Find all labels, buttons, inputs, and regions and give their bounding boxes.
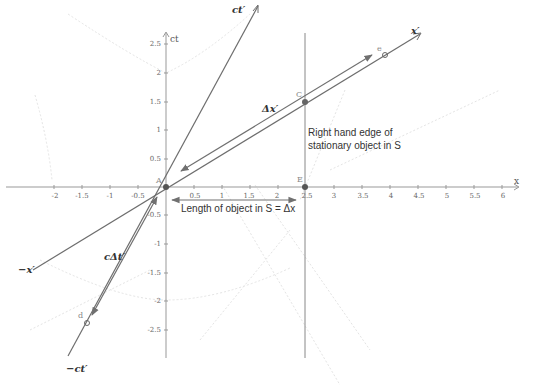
x-axis-label: x <box>514 176 519 186</box>
x-prime-axis <box>33 33 421 270</box>
svg-text:1.5: 1.5 <box>150 98 161 106</box>
svg-text:-1: -1 <box>154 240 161 248</box>
ct-prime-axis <box>68 5 258 356</box>
svg-text:1.5: 1.5 <box>243 192 254 200</box>
right-edge-label-line1: Right hand edge of <box>308 127 393 138</box>
svg-text:2.5: 2.5 <box>150 40 161 48</box>
neg-x-prime-label: −x′ <box>18 264 35 275</box>
svg-text:e: e <box>377 44 382 53</box>
right-edge-label-line2: stationary object in S <box>308 140 401 151</box>
svg-text:-0.5: -0.5 <box>148 211 162 219</box>
x-tick-labels: -2 -1.5 -1 -0.5 0.5 1 1.5 2 2.5 3 3.5 4 … <box>52 192 506 200</box>
svg-text:3.5: 3.5 <box>357 192 368 200</box>
ct-prime-label: ct′ <box>232 4 246 15</box>
svg-text:2: 2 <box>157 69 161 77</box>
svg-text:6: 6 <box>501 192 506 200</box>
point-d[interactable]: d <box>78 311 90 326</box>
point-C[interactable]: C <box>296 90 308 105</box>
svg-text:3: 3 <box>332 192 336 200</box>
x-axis: x <box>6 176 519 190</box>
svg-text:4.5: 4.5 <box>413 192 424 200</box>
svg-text:C: C <box>296 90 302 99</box>
svg-text:-1.5: -1.5 <box>148 269 162 277</box>
svg-text:2: 2 <box>275 192 279 200</box>
svg-text:1: 1 <box>157 126 161 134</box>
svg-text:0.5: 0.5 <box>189 192 200 200</box>
svg-text:-0.5: -0.5 <box>131 192 145 200</box>
svg-text:d: d <box>78 311 83 320</box>
x-prime-label: x′ <box>410 25 420 36</box>
svg-text:-1: -1 <box>107 192 114 200</box>
svg-text:-1.5: -1.5 <box>75 192 89 200</box>
spacetime-diagram: x ct -2 -1.5 <box>0 0 540 385</box>
svg-text:0.5: 0.5 <box>150 155 161 163</box>
svg-text:2.5: 2.5 <box>301 192 312 200</box>
svg-text:5: 5 <box>445 192 449 200</box>
neg-ct-prime-label: −ct′ <box>66 363 88 374</box>
point-E[interactable]: E <box>297 175 308 190</box>
svg-text:1: 1 <box>220 192 224 200</box>
ct-axis-label: ct <box>170 34 179 44</box>
svg-text:4: 4 <box>389 192 394 200</box>
delta-x-prime-label: Δx′ <box>261 103 279 114</box>
svg-text:A: A <box>155 176 162 185</box>
svg-text:E: E <box>297 175 303 184</box>
length-of-object-label: Length of object in S = Δx <box>181 203 295 214</box>
svg-text:-2: -2 <box>52 192 59 200</box>
svg-text:-2.5: -2.5 <box>148 326 162 334</box>
ct-axis: ct <box>163 32 179 358</box>
c-delta-t-prime-label: cΔt′ <box>104 251 125 262</box>
svg-text:5.5: 5.5 <box>469 192 480 200</box>
svg-text:-2: -2 <box>154 297 161 305</box>
